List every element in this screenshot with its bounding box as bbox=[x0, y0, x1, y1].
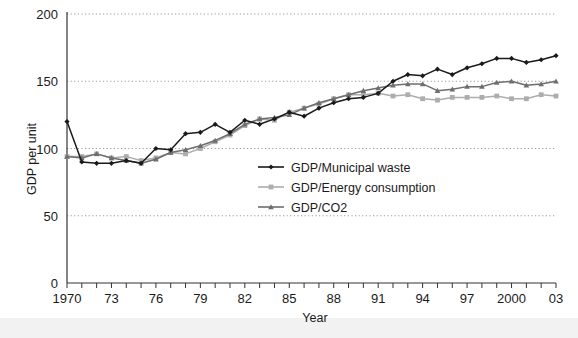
gdp-per-unit-line-chart: 050100150200 197073767982858891949720000… bbox=[0, 0, 578, 338]
data-point bbox=[509, 96, 514, 101]
x-tick-label-1997: 97 bbox=[460, 291, 474, 306]
x-tick-label-2000: 2000 bbox=[497, 291, 526, 306]
data-point bbox=[435, 98, 440, 103]
x-tick-label-1985: 85 bbox=[282, 291, 296, 306]
legend-label: GDP/CO2 bbox=[291, 201, 347, 215]
data-point bbox=[494, 94, 499, 99]
legend-label: GDP/Municipal waste bbox=[291, 161, 411, 175]
y-tick-label-0: 0 bbox=[51, 276, 58, 291]
y-tick-label-50: 50 bbox=[44, 209, 58, 224]
data-point bbox=[420, 96, 425, 101]
x-tick-label-1988: 88 bbox=[326, 291, 340, 306]
y-tick-label-200: 200 bbox=[36, 7, 58, 22]
data-point bbox=[480, 95, 485, 100]
data-point bbox=[554, 94, 559, 99]
data-point bbox=[524, 96, 529, 101]
x-tick-label-1976: 76 bbox=[149, 291, 163, 306]
legend-label: GDP/Energy consumption bbox=[291, 181, 436, 195]
legend-marker bbox=[269, 185, 274, 190]
chart-figure: 050100150200 197073767982858891949720000… bbox=[0, 0, 578, 338]
x-tick-label-1994: 94 bbox=[415, 291, 429, 306]
y-tick-label-100: 100 bbox=[36, 142, 58, 157]
x-tick-label-2003: 03 bbox=[549, 291, 563, 306]
x-axis-title: Year bbox=[302, 311, 327, 325]
data-point bbox=[391, 94, 396, 99]
x-tick-label-1982: 82 bbox=[238, 291, 252, 306]
data-point bbox=[450, 95, 455, 100]
data-point bbox=[183, 151, 188, 156]
x-tick-label-1979: 79 bbox=[193, 291, 207, 306]
y-tick-label-150: 150 bbox=[36, 74, 58, 89]
data-point bbox=[405, 92, 410, 97]
page-edge-band bbox=[0, 318, 578, 338]
x-tick-label-1970: 1970 bbox=[53, 291, 82, 306]
y-axis-title: GDP per unit bbox=[25, 122, 39, 195]
x-tick-label-1991: 91 bbox=[371, 291, 385, 306]
data-point bbox=[539, 92, 544, 97]
x-tick-label-1973: 73 bbox=[104, 291, 118, 306]
data-point bbox=[465, 95, 470, 100]
